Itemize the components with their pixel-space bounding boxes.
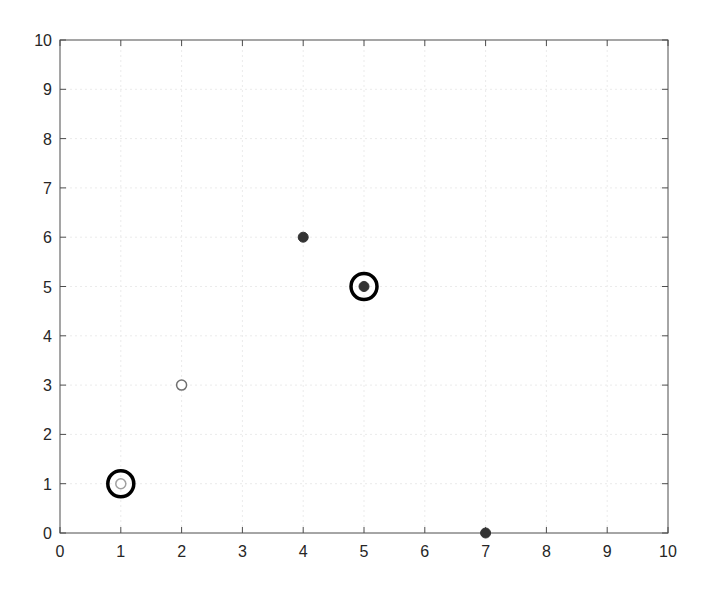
filled-marker-icon xyxy=(359,282,369,292)
y-tick-label: 8 xyxy=(43,131,52,148)
y-tick-label: 4 xyxy=(43,328,52,345)
y-tick-label: 3 xyxy=(43,377,52,394)
x-tick-label: 3 xyxy=(238,543,247,560)
y-tick-label: 1 xyxy=(43,476,52,493)
x-tick-label: 0 xyxy=(56,543,65,560)
data-point xyxy=(298,232,308,242)
y-tick-label: 9 xyxy=(43,81,52,98)
y-axis-tick-labels: 012345678910 xyxy=(34,32,52,542)
x-axis-tick-labels: 012345678910 xyxy=(56,543,677,560)
y-tick-label: 2 xyxy=(43,426,52,443)
x-tick-label: 7 xyxy=(481,543,490,560)
x-tick-label: 9 xyxy=(603,543,612,560)
filled-marker-icon xyxy=(481,528,491,538)
data-point xyxy=(481,528,491,538)
open-marker-icon xyxy=(177,380,187,390)
x-tick-label: 2 xyxy=(177,543,186,560)
data-point xyxy=(177,380,187,390)
x-tick-label: 1 xyxy=(116,543,125,560)
y-tick-label: 10 xyxy=(34,32,52,49)
x-tick-label: 5 xyxy=(360,543,369,560)
x-tick-label: 8 xyxy=(542,543,551,560)
filled-marker-icon xyxy=(298,232,308,242)
x-tick-label: 10 xyxy=(659,543,677,560)
x-tick-label: 6 xyxy=(420,543,429,560)
open-marker-icon xyxy=(116,479,126,489)
scatter-chart: 012345678910 012345678910 xyxy=(0,0,711,590)
y-tick-label: 6 xyxy=(43,229,52,246)
y-tick-label: 7 xyxy=(43,180,52,197)
x-tick-label: 4 xyxy=(299,543,308,560)
y-tick-label: 5 xyxy=(43,279,52,296)
y-tick-label: 0 xyxy=(43,525,52,542)
